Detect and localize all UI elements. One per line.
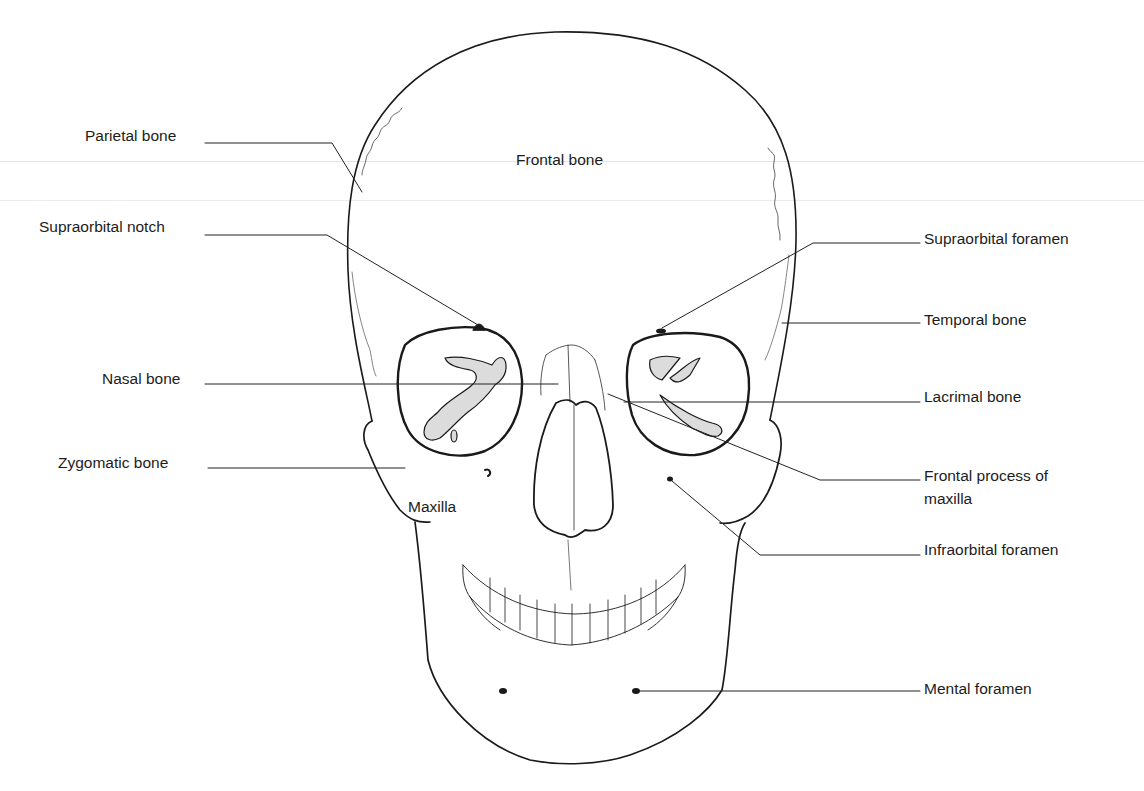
left-orbital-fissure [424, 357, 506, 440]
left-mental-foramen [499, 688, 507, 694]
left-orbit [398, 327, 522, 455]
right-orbit [627, 333, 749, 455]
supraorbital-foramen-mark [656, 329, 666, 334]
leader-supraorbital-notch [205, 235, 478, 325]
label-lacrimal-bone: Lacrimal bone [924, 388, 1021, 406]
label-nasal-bone: Nasal bone [102, 370, 180, 388]
label-supraorbital-foramen: Supraorbital foramen [924, 230, 1069, 248]
label-temporal-bone: Temporal bone [924, 311, 1027, 329]
internasal-suture [568, 345, 570, 402]
nasal-aperture [534, 400, 613, 537]
upper-teeth [463, 565, 685, 614]
cranium-outline [348, 32, 796, 421]
right-orbit-groove [660, 395, 722, 436]
temporal-line-right [765, 255, 789, 360]
maxilla-label: Maxilla [408, 498, 456, 516]
label-frontal-process-line1: Frontal process of [924, 467, 1048, 485]
leader-lines [205, 143, 920, 691]
right-cheek-outline [720, 420, 781, 523]
frontal-bone-label: Frontal bone [516, 151, 603, 169]
label-infraorbital-foramen: Infraorbital foramen [924, 541, 1058, 559]
right-mental-foramen [632, 688, 640, 694]
label-supraorbital-notch: Supraorbital notch [39, 218, 165, 236]
nasal-bone-outline [541, 345, 605, 410]
intermaxillary-suture [568, 540, 571, 590]
leader-frontal-process [608, 394, 920, 480]
left-orbit-foramen [451, 430, 457, 442]
left-infraorbital-foramen [485, 470, 490, 476]
label-frontal-process-line2: maxilla [924, 490, 972, 508]
temporal-line-left [352, 272, 376, 376]
mandible-outline [415, 522, 745, 764]
tooth-dividers [490, 578, 656, 645]
supraorbital-notch-mark [473, 324, 485, 330]
coronal-suture-right [768, 148, 780, 240]
leader-supraorbital-foramen [662, 243, 920, 328]
label-parietal-bone: Parietal bone [85, 127, 176, 145]
lower-teeth [470, 597, 678, 645]
coronal-suture-left [362, 108, 402, 175]
leader-parietal [205, 143, 362, 192]
leader-infraorbital [672, 481, 920, 555]
label-mental-foramen: Mental foramen [924, 680, 1032, 698]
label-zygomatic-bone: Zygomatic bone [58, 454, 168, 472]
